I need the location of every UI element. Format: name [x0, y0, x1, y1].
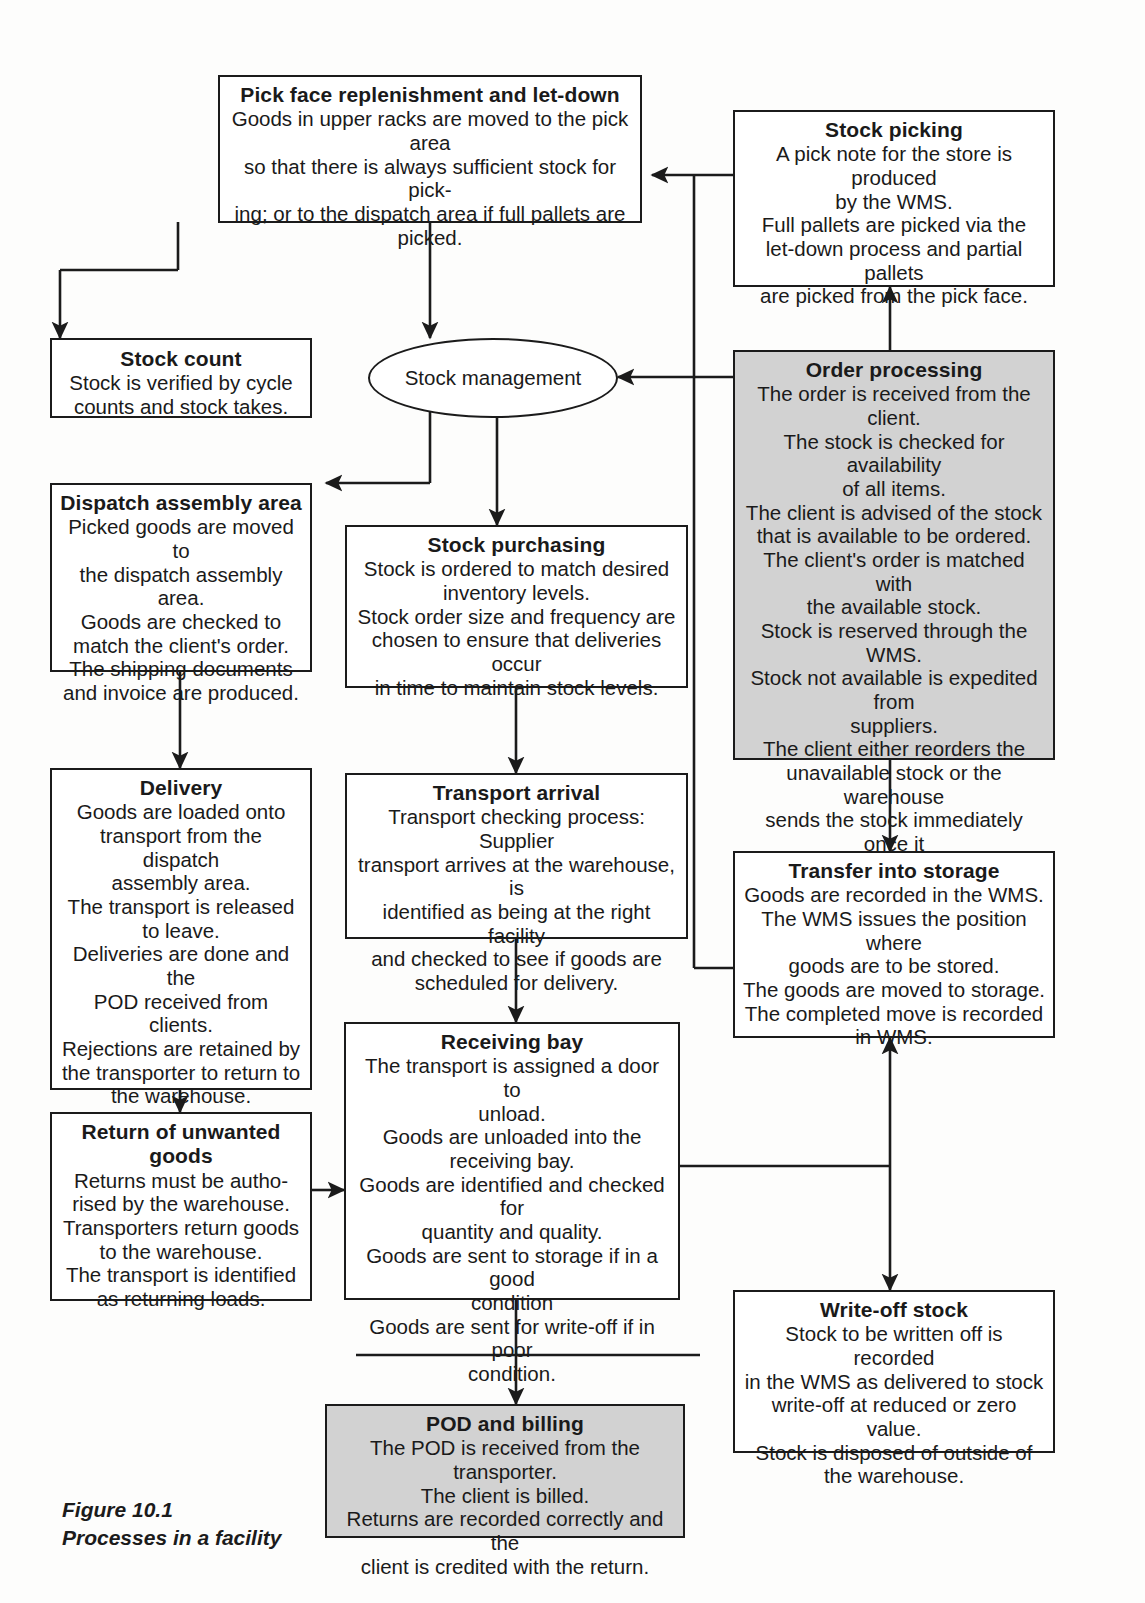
- node-dispatch-assembly-area[interactable]: Dispatch assembly area Picked goods are …: [50, 483, 312, 672]
- node-transfer-into-storage[interactable]: Transfer into storage Goods are recorded…: [733, 851, 1055, 1038]
- node-title: Dispatch assembly area: [60, 491, 302, 515]
- node-body: Stock is ordered to match desired invent…: [355, 557, 678, 699]
- node-stock-picking[interactable]: Stock picking A pick note for the store …: [733, 110, 1055, 287]
- node-title: Return of unwanted goods: [60, 1120, 302, 1169]
- node-stock-count[interactable]: Stock count Stock is verified by cycle c…: [50, 338, 312, 418]
- node-body: Returns must be autho- rised by the ware…: [60, 1169, 302, 1311]
- node-title: Receiving bay: [354, 1030, 670, 1054]
- node-body: Goods are recorded in the WMS. The WMS i…: [743, 883, 1045, 1049]
- node-title: Transfer into storage: [743, 859, 1045, 883]
- node-transport-arrival[interactable]: Transport arrival Transport checking pro…: [345, 773, 688, 939]
- node-body: Goods in upper racks are moved to the pi…: [228, 107, 632, 249]
- node-pick-face-replenishment[interactable]: Pick face replenishment and let-down Goo…: [218, 75, 642, 223]
- node-title: Write-off stock: [743, 1298, 1045, 1322]
- node-delivery[interactable]: Delivery Goods are loaded onto transport…: [50, 768, 312, 1090]
- node-stock-management[interactable]: Stock management: [368, 338, 618, 418]
- node-title: POD and billing: [335, 1412, 675, 1436]
- node-body: Stock to be written off is recorded in t…: [743, 1322, 1045, 1488]
- node-order-processing[interactable]: Order processing The order is received f…: [733, 350, 1055, 760]
- node-body: The order is received from the client. T…: [743, 382, 1045, 879]
- node-write-off-stock[interactable]: Write-off stock Stock to be written off …: [733, 1290, 1055, 1453]
- node-title: Stock count: [60, 347, 302, 371]
- figure-canvas: Pick face replenishment and let-down Goo…: [0, 0, 1145, 1603]
- node-body: A pick note for the store is produced by…: [743, 142, 1045, 308]
- node-body: Goods are loaded onto transport from the…: [60, 800, 302, 1108]
- node-title: Pick face replenishment and let-down: [228, 83, 632, 107]
- node-body: Picked goods are moved to the dispatch a…: [60, 515, 302, 704]
- node-title: Transport arrival: [355, 781, 678, 805]
- node-title: Stock picking: [743, 118, 1045, 142]
- node-return-of-unwanted-goods[interactable]: Return of unwanted goods Returns must be…: [50, 1112, 312, 1301]
- node-body: Stock is verified by cycle counts and st…: [60, 371, 302, 418]
- node-body: The transport is assigned a door to unlo…: [354, 1054, 670, 1385]
- node-stock-purchasing[interactable]: Stock purchasing Stock is ordered to mat…: [345, 525, 688, 688]
- node-title: Order processing: [743, 358, 1045, 382]
- node-title: Stock purchasing: [355, 533, 678, 557]
- figure-caption: Figure 10.1 Processes in a facility: [62, 1496, 362, 1551]
- node-receiving-bay[interactable]: Receiving bay The transport is assigned …: [344, 1022, 680, 1300]
- node-title: Stock management: [405, 366, 582, 390]
- node-title: Delivery: [60, 776, 302, 800]
- node-pod-and-billing[interactable]: POD and billing The POD is received from…: [325, 1404, 685, 1538]
- node-body: The POD is received from the transporter…: [335, 1436, 675, 1578]
- node-body: Transport checking process: Supplier tra…: [355, 805, 678, 994]
